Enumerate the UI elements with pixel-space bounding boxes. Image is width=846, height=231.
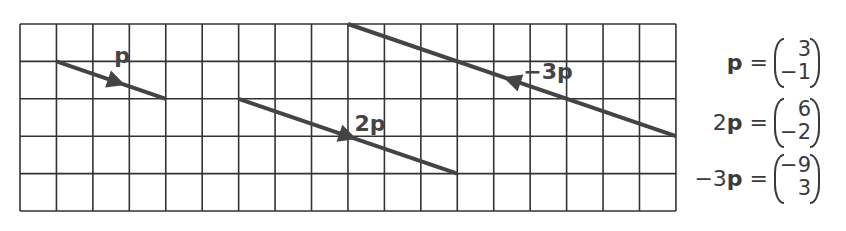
arrowhead-icon <box>503 74 523 91</box>
arrowhead-icon <box>337 125 357 142</box>
right-paren <box>810 98 820 148</box>
vector-label-2p: 2p <box>354 111 385 136</box>
vector-label-neg3p: −3p <box>523 59 573 84</box>
equals-sign: = <box>750 166 768 191</box>
vector-label-p: p <box>114 43 130 68</box>
equation-lhs: p = <box>727 50 768 75</box>
equation-2p: 2p = 6 −2 <box>666 98 846 148</box>
equation-neg3p: −3p = −9 3 <box>666 154 846 204</box>
vector-symbol: p <box>727 110 743 135</box>
coefficient: −3 <box>694 166 726 191</box>
vector-x-component: −9 <box>780 155 811 176</box>
equation-p: p = 3 −1 <box>666 38 846 88</box>
vector-labels: p2p−3p <box>114 43 573 136</box>
equals-sign: = <box>750 50 768 75</box>
coefficient: 2 <box>713 110 727 135</box>
vector-x-component: 3 <box>798 39 811 60</box>
vector-x-component: 6 <box>798 99 811 120</box>
right-paren <box>810 38 820 88</box>
vector-y-component: −1 <box>780 62 811 83</box>
vector-grid-diagram: p2p−3p <box>0 0 700 231</box>
vector-y-component: −2 <box>780 122 811 143</box>
column-vector: −9 3 <box>774 154 824 202</box>
equals-sign: = <box>750 110 768 135</box>
right-paren <box>810 154 820 204</box>
equation-lhs: 2p = <box>713 110 768 135</box>
arrowhead-icon <box>105 71 125 88</box>
column-vector: 6 −2 <box>774 98 824 146</box>
vector-y-component: 3 <box>798 178 811 199</box>
column-vector: 3 −1 <box>774 38 824 86</box>
vector-symbol: p <box>727 50 743 75</box>
vector-symbol: p <box>727 166 743 191</box>
equation-lhs: −3p = <box>694 166 768 191</box>
